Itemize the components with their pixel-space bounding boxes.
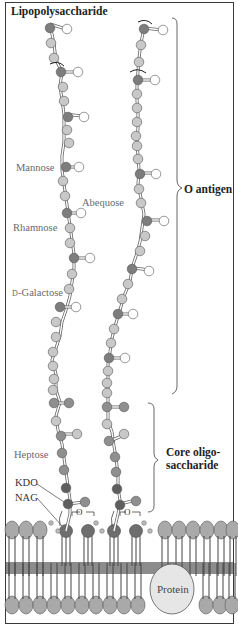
label-heptose: Heptose bbox=[14, 450, 48, 461]
label-kdo: KDO bbox=[15, 478, 38, 489]
kdo-leader-line bbox=[37, 484, 64, 502]
label-mannose: Mannose bbox=[16, 163, 55, 174]
lps-diagram-svg bbox=[0, 0, 238, 628]
lps-chain-left bbox=[45, 23, 95, 531]
label-nag: NAG bbox=[15, 493, 38, 504]
label-oxygen-1: O bbox=[76, 508, 83, 517]
label-o-antigen: O antigen bbox=[184, 183, 232, 196]
core-brace bbox=[148, 403, 158, 512]
core-label-line-1: Core oligo- bbox=[166, 446, 220, 459]
label-rhamnose: Rhamnose bbox=[13, 223, 57, 234]
label-abequose: Abequose bbox=[82, 198, 124, 209]
diagram-title: Lipopolysaccharide bbox=[11, 5, 107, 17]
lipid-a bbox=[49, 512, 153, 566]
core-label-line-2: saccharide bbox=[166, 459, 220, 472]
label-protein: Protein bbox=[157, 583, 189, 595]
label-core-oligosaccharide: Core oligo- saccharide bbox=[166, 446, 220, 472]
label-d-galactose: D-Galactose bbox=[12, 288, 63, 299]
label-oxygen-2: O bbox=[124, 508, 131, 517]
membrane bbox=[5, 512, 238, 614]
lps-chain-right bbox=[102, 20, 169, 531]
o-antigen-brace bbox=[172, 18, 182, 394]
